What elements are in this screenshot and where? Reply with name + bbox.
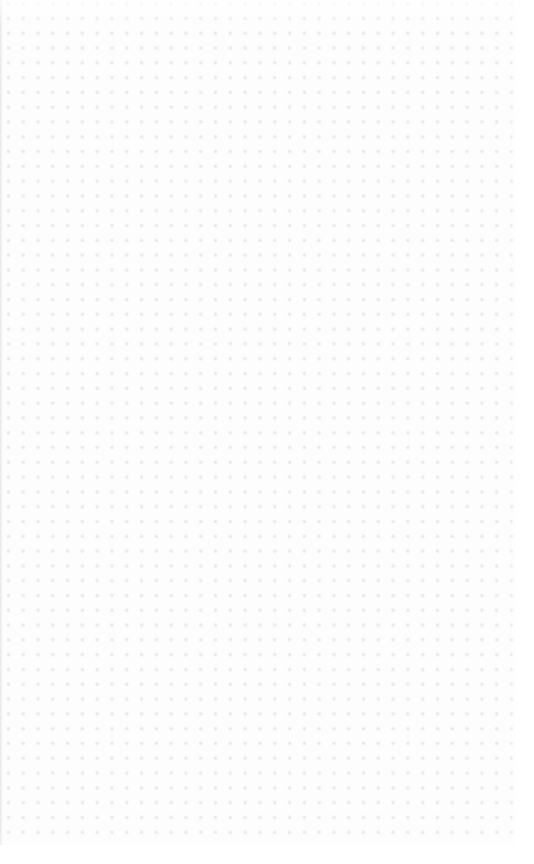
canvas-screen: Empty dot-grid canvas with no content bbox=[0, 0, 534, 864]
canvas-content-layer[interactable] bbox=[0, 0, 534, 864]
dot-grid-canvas[interactable]: Empty dot-grid canvas with no content bbox=[0, 0, 534, 864]
